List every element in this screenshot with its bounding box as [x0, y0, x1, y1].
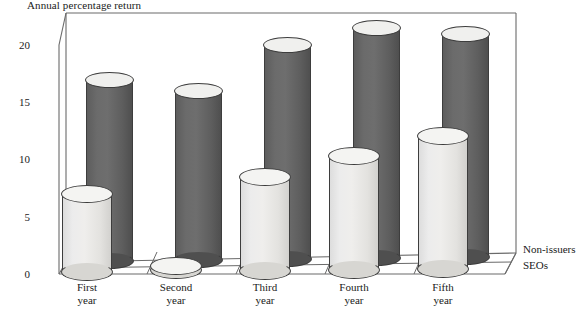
y-tick-10: 10 [8, 153, 30, 165]
cylinder-body [175, 90, 222, 261]
bar-chart-3d: Annual percentage return 20 15 10 [0, 0, 581, 311]
category-label-line1: Fifth [401, 281, 485, 294]
y-tick-0: 0 [8, 268, 30, 280]
category-label-fourth-year: Fourth year [312, 281, 396, 307]
cylinder-top [441, 26, 490, 42]
bar-seos-third-year [240, 176, 290, 272]
category-label-line2: year [223, 294, 307, 307]
cylinder-top [61, 185, 113, 203]
category-label-fifth-year: Fifth year [401, 281, 485, 307]
cylinder-top [85, 72, 134, 88]
y-tick-20: 20 [8, 39, 30, 51]
cylinder-body [240, 176, 290, 272]
category-label-line2: year [401, 294, 485, 307]
category-label-line1: First [45, 281, 129, 294]
bar-seos-fourth-year [329, 155, 379, 271]
cylinder-body [418, 135, 468, 270]
cylinder-bottom [61, 263, 113, 281]
bar-non-issuers-second-year [175, 90, 222, 261]
y-tick-5: 5 [8, 211, 30, 223]
y-tick-15: 15 [8, 96, 30, 108]
cylinder-top [328, 147, 380, 165]
legend-label-seos: SEOs [523, 259, 548, 271]
category-label-third-year: Third year [223, 281, 307, 307]
cylinder-bottom [239, 262, 291, 280]
bar-seos-first-year [62, 193, 112, 273]
category-label-line1: Second [134, 281, 218, 294]
cylinder-bottom [417, 260, 469, 278]
category-label-line1: Fourth [312, 281, 396, 294]
cylinder-bottom [328, 261, 380, 279]
y-axis-title: Annual percentage return [27, 0, 141, 11]
category-label-line2: year [312, 294, 396, 307]
legend-label-non-issuers: Non-issuers [523, 243, 576, 255]
category-label-second-year: Second year [134, 281, 218, 307]
cylinder-top [263, 37, 312, 53]
cylinder-top [417, 127, 469, 145]
cylinder-body [62, 193, 112, 273]
cylinder-body [329, 155, 379, 271]
category-label-line2: year [45, 294, 129, 307]
cylinder-top [239, 168, 291, 186]
bar-seos-second-year [151, 265, 201, 271]
cylinder-top [174, 83, 223, 99]
cylinder-top [352, 20, 401, 36]
category-label-line1: Third [223, 281, 307, 294]
category-label-line2: year [134, 294, 218, 307]
cylinder-top [150, 257, 202, 275]
category-label-first-year: First year [45, 281, 129, 307]
bar-seos-fifth-year [418, 135, 468, 270]
